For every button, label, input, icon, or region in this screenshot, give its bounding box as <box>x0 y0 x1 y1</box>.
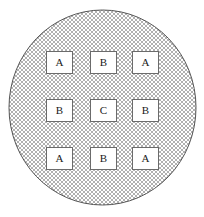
grid-cell-label: B <box>100 153 107 164</box>
grid-cell-label: B <box>100 57 107 68</box>
grid-cell-label: A <box>142 153 150 164</box>
grid-cell-r2c3[interactable]: B <box>132 99 159 122</box>
grid-cell-label: B <box>56 105 63 116</box>
grid-cell-label: A <box>56 57 64 68</box>
grid-cell-r1c2[interactable]: B <box>90 51 117 74</box>
grid-cell-r1c1[interactable]: A <box>46 51 73 74</box>
grid-cell-label: A <box>56 153 64 164</box>
grid-cell-r3c1[interactable]: A <box>46 147 73 170</box>
grid-cell-r3c3[interactable]: A <box>132 147 159 170</box>
grid-cell-label: B <box>142 105 149 116</box>
grid-cell-r3c2[interactable]: B <box>90 147 117 170</box>
grid-cell-label: A <box>142 57 150 68</box>
grid-cell-r2c2[interactable]: C <box>90 99 117 122</box>
grid-cell-label: C <box>100 105 107 116</box>
grid-cell-r2c1[interactable]: B <box>46 99 73 122</box>
grid-cell-r1c3[interactable]: A <box>132 51 159 74</box>
diagram-canvas: A B A B C B A B A <box>0 0 204 217</box>
